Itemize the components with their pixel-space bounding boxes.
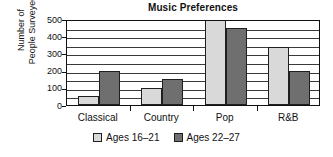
plot-area	[66, 20, 320, 106]
bar	[141, 88, 162, 105]
legend-entry[interactable]: Ages 22–27	[174, 132, 240, 143]
chart-title: Music Preferences	[66, 2, 320, 13]
x-axis-tick-mark	[130, 106, 131, 111]
legend-swatch-icon	[174, 133, 183, 142]
legend-label: Ages 22–27	[187, 132, 240, 143]
bar	[99, 71, 120, 105]
bar-chart-figure: Music Preferences Number of People Surve…	[0, 0, 333, 157]
legend-label: Ages 16–21	[106, 132, 159, 143]
chart-legend: Ages 16–21Ages 22–27	[0, 132, 333, 143]
x-axis-tick-mark	[193, 106, 194, 111]
bar	[162, 79, 183, 105]
bar	[226, 28, 247, 105]
x-axis: ClassicalCountryPopR&B	[66, 106, 320, 128]
legend-entry[interactable]: Ages 16–21	[93, 132, 159, 143]
x-axis-category-label: Pop	[193, 112, 257, 124]
bar	[78, 96, 99, 105]
x-axis-category-label: Classical	[66, 112, 130, 124]
gridline	[67, 38, 319, 39]
x-axis-category-label: Country	[130, 112, 194, 124]
bar	[268, 47, 289, 105]
bar	[289, 71, 310, 105]
legend-swatch-icon	[93, 133, 102, 142]
x-axis-category-label: R&B	[257, 112, 321, 124]
x-axis-tick-mark	[257, 106, 258, 111]
gridline	[67, 30, 319, 31]
bar	[205, 20, 226, 105]
y-axis-tick-marks	[0, 20, 70, 106]
